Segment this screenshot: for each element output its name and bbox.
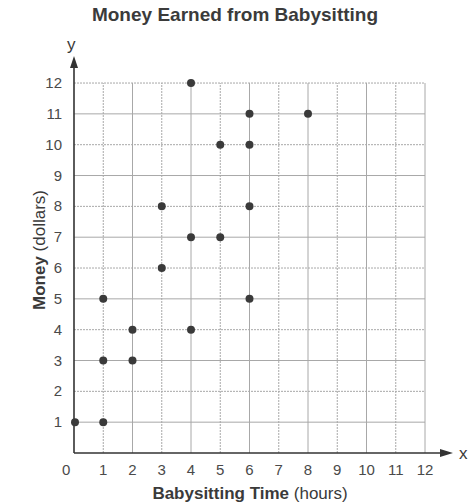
x-tick-label: 12 [417, 461, 434, 478]
data-point [129, 326, 137, 334]
data-point [246, 141, 254, 149]
data-point [158, 202, 166, 210]
data-point [71, 418, 79, 426]
data-point [187, 233, 195, 241]
y-tick-label: 10 [45, 136, 62, 153]
data-point [158, 264, 166, 272]
y-tick-label: 5 [54, 290, 62, 307]
y-tick-label: 4 [54, 321, 62, 338]
data-point [304, 110, 312, 118]
y-tick-label: 6 [54, 259, 62, 276]
x-tick-label: 7 [275, 461, 283, 478]
data-point [187, 326, 195, 334]
x-tick-label: 5 [216, 461, 224, 478]
data-point [99, 357, 107, 365]
y-tick-label: 1 [54, 413, 62, 430]
x-axis-label-unit: (hours) [294, 484, 348, 502]
data-point [246, 110, 254, 118]
y-tick-label: 7 [54, 228, 62, 245]
x-tick-label: 6 [245, 461, 253, 478]
x-tick-label: 2 [128, 461, 136, 478]
y-tick-label: 2 [54, 382, 62, 399]
x-tick-label: 11 [388, 461, 404, 478]
y-tick-label: 12 [45, 74, 62, 91]
data-point [216, 141, 224, 149]
x-tick-label: 8 [304, 461, 312, 478]
x-tick-label: 9 [333, 461, 341, 478]
y-tick-label: 9 [54, 167, 62, 184]
data-point [99, 295, 107, 303]
x-tick-label: 3 [158, 461, 166, 478]
y-tick-label: 3 [54, 352, 62, 369]
y-tick-label: 8 [54, 197, 62, 214]
y-tick-label: 11 [46, 105, 62, 122]
y-axis-label-unit: (dollars) [30, 190, 49, 251]
scatter-plot: 123456789101112 123456789101112 x y 0 [0, 0, 470, 502]
origin-label: 0 [62, 461, 70, 478]
x-axis-label-main: Babysitting Time [152, 484, 289, 502]
y-axis-label: Money (dollars) [30, 170, 50, 330]
x-tick-label: 10 [358, 461, 375, 478]
data-point [99, 418, 107, 426]
x-tick-labels: 123456789101112 [99, 461, 433, 478]
data-point [216, 233, 224, 241]
x-axis-label: Babysitting Time (hours) [0, 484, 470, 502]
y-axis-label-main: Money [30, 256, 49, 310]
x-axis-letter: x [459, 444, 468, 463]
data-point [246, 202, 254, 210]
x-tick-label: 4 [187, 461, 195, 478]
grid-lines [74, 83, 425, 453]
y-axis-letter: y [67, 35, 76, 54]
data-point [129, 357, 137, 365]
data-point [187, 79, 195, 87]
data-point [246, 295, 254, 303]
x-tick-label: 1 [99, 461, 107, 478]
